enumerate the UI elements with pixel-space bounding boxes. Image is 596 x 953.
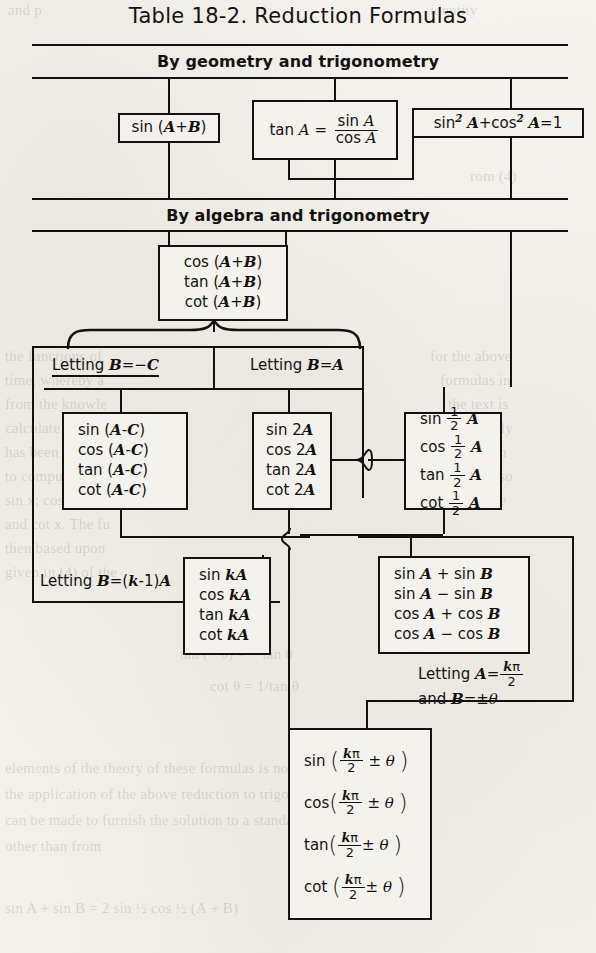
- formula-cot-a-plus-b: cot (A+B): [185, 293, 262, 313]
- formula-tan-2a: tan 2A: [266, 461, 317, 481]
- band-label-algebra: By algebra and trigonometry: [0, 206, 596, 225]
- formula-cos-a-minus-c: cos (A-C): [78, 441, 149, 461]
- bleedthrough-line: sin A + sin B = 2 sin ½ cos ½ (A + B): [5, 900, 238, 917]
- formula-pythagorean: sin2 A+cos2 A=1: [434, 112, 562, 134]
- connector-tan-center-down: [334, 160, 336, 200]
- line-jump-crossing: [278, 528, 304, 550]
- label-letting-a-kpi-over-2: Letting A=kπ2: [418, 660, 524, 688]
- rule-under-geometry: [32, 77, 568, 79]
- connector-tan-left-stub: [288, 160, 290, 180]
- figure-page: and pidentityrom (4)the functions oftime…: [0, 0, 596, 953]
- formula-sin-a-minus-sin-b: sin A − sin B: [394, 585, 493, 605]
- formula-tan-a-minus-c: tan (A-C): [78, 461, 148, 481]
- formula-cot-a-minus-c: cot (A-C): [78, 481, 147, 501]
- bleedthrough-line: elements of the theory of these formulas…: [5, 760, 293, 777]
- connector-tan-identity-top: [334, 78, 336, 100]
- box-multiple-angle-formulas: sin kA cos kA tan kA cot kA: [183, 557, 271, 655]
- formula-sin-a-minus-c: sin (A-C): [78, 421, 145, 441]
- bleedthrough-line: and cot x. The fu: [5, 516, 110, 533]
- connector-double-angle-top: [288, 388, 290, 412]
- formula-sin-a-plus-b: sin (A+B): [132, 118, 207, 138]
- formula-cot-ka: cot kA: [199, 626, 249, 646]
- connector-double-to-half-right: [368, 459, 404, 461]
- formula-tan-ka: tan kA: [199, 606, 250, 626]
- band-label-geometry: By geometry and trigonometry: [0, 52, 596, 71]
- connector-difference-bottom: [120, 510, 122, 538]
- bleedthrough-line: from the knowle: [5, 396, 107, 413]
- box-pythagorean-identity: sin2 A+cos2 A=1: [412, 108, 584, 138]
- connector-difference-top: [120, 388, 122, 412]
- formula-tan-a-plus-b: tan (A+B): [184, 273, 262, 293]
- bleedthrough-line: then based upon: [5, 540, 105, 557]
- connector-pythagorean-bottom: [510, 138, 512, 200]
- label-letting-a-line1: Letting A=kπ2: [418, 660, 524, 688]
- formula-sin-half-a: sin 12 A: [420, 405, 479, 433]
- box-sin-sum: sin (A+B): [118, 113, 220, 143]
- formula-cos-reduction: cos(kπ2 ± θ ): [304, 789, 407, 817]
- formula-sin-ka: sin kA: [199, 566, 247, 586]
- box-sum-to-product-formulas: sin A + sin B sin A − sin B cos A + cos …: [378, 556, 530, 654]
- label-and-b-plus-minus-theta: and B=±θ: [418, 690, 498, 708]
- formula-cos-a-minus-cos-b: cos A − cos B: [394, 625, 500, 645]
- right-group-frame-top: [358, 536, 574, 538]
- formula-tan-identity: tan A = sin A cos A: [269, 114, 380, 147]
- formula-tan-reduction: tan(kπ2± θ ): [304, 831, 402, 859]
- formula-cos-half-a: cos 12 A: [420, 433, 483, 461]
- divider-between-letting-sections: [213, 346, 215, 388]
- bleedthrough-line: for the above: [430, 348, 512, 365]
- box-half-angle-formulas: sin 12 A cos 12 A tan 12 A cot 12 A: [404, 412, 502, 510]
- connector-sin-sum-bottom: [168, 143, 170, 198]
- rule-under-algebra: [32, 230, 568, 232]
- page-title: Table 18-2. Reduction Formulas: [0, 4, 596, 28]
- formula-cot-half-a: cot 12 A: [420, 489, 481, 517]
- connector-down-to-reduction: [288, 548, 290, 740]
- formula-sin-a-plus-sin-b: sin A + sin B: [394, 565, 493, 585]
- connector-pythagorean-top: [510, 78, 512, 108]
- formula-cos-2a: cos 2A: [266, 441, 317, 461]
- group-frame-left-edge: [32, 346, 34, 603]
- formula-tan-half-a: tan 12 A: [420, 461, 482, 489]
- formula-sin-reduction: sin (kπ2 ± θ ): [304, 747, 408, 775]
- connector-right-spine: [510, 231, 512, 387]
- formula-cot-2a: cot 2A: [266, 481, 315, 501]
- box-reduction-formulas: sin (kπ2 ± θ ) cos(kπ2 ± θ ) tan(kπ2± θ …: [288, 728, 432, 920]
- right-group-frame-drop: [366, 700, 368, 728]
- right-group-frame-right-edge: [572, 536, 574, 702]
- bleedthrough-line: other than from: [5, 838, 101, 855]
- rule-top: [32, 44, 568, 46]
- connector-sin-sum-top: [168, 78, 170, 113]
- connector-tan-bus: [288, 178, 414, 180]
- group-frame-right-edge: [362, 346, 364, 498]
- box-tan-identity: tan A = sin A cos A: [252, 100, 398, 160]
- bleedthrough-line: formulas in: [440, 372, 511, 389]
- connector-pythagorean-down-left: [412, 135, 414, 180]
- formula-cos-a-plus-cos-b: cos A + cos B: [394, 605, 500, 625]
- label-letting-b-neg-c: Letting B=−C: [52, 356, 159, 374]
- box-difference-formulas: sin (A-C) cos (A-C) tan (A-C) cot (A-C): [62, 412, 188, 510]
- box-double-angle-formulas: sin 2A cos 2A tan 2A cot 2A: [252, 412, 332, 510]
- rule-above-algebra: [32, 198, 568, 200]
- underline-letting-b-neg-c: [44, 388, 212, 390]
- formula-cot-reduction: cot (kπ2± θ ): [304, 873, 406, 901]
- label-letting-b-k-minus-1-a: Letting B=(k-1)A: [40, 572, 171, 590]
- box-sum-formulas: cos (A+B) tan (A+B) cot (A+B): [158, 245, 288, 321]
- formula-cos-ka: cos kA: [199, 586, 251, 606]
- formula-sin-2a: sin 2A: [266, 421, 313, 441]
- formula-cos-a-plus-b: cos (A+B): [184, 253, 263, 273]
- label-letting-b-a: Letting B=A: [250, 356, 344, 374]
- bleedthrough-line: cot θ = 1/tan θ: [210, 678, 299, 695]
- connector-brace-stem: [213, 320, 215, 332]
- bleedthrough-line: the application of the above reduction t…: [5, 786, 304, 803]
